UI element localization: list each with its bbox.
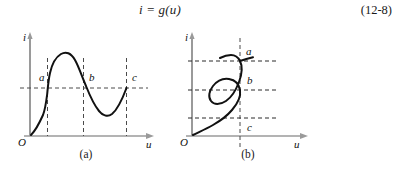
point-label-a-a: a [39,71,45,83]
curve-b-tail [240,57,253,61]
point-label-a-c: c [132,71,137,83]
y-axis-a [27,32,32,136]
y-axis-b [189,32,194,136]
point-label-b-a: a [246,45,252,57]
origin-label-a: O [18,136,26,148]
plot-area-a: a b c i u O [6,28,166,150]
caption-a: (a) [6,148,166,160]
origin-label-b: O [180,136,188,148]
equation-text: i = g(u) [0,2,320,18]
point-label-b-c: c [247,121,252,133]
point-label-a-b: b [89,71,95,83]
curve-a [31,53,127,135]
point-label-b-b: b [247,74,253,86]
y-axis-label-b: i [185,31,188,43]
y-axis-label-a: i [23,31,26,43]
figure-a: a b c i u O (a) [6,28,166,178]
plot-area-b: a b c i u O [168,28,328,150]
caption-b: (b) [168,148,328,160]
figure-page: i = g(u) (12-8) [0,0,400,181]
equation-number: (12-8) [361,3,392,18]
x-axis-b [186,133,308,139]
figure-b: a b c i u O (b) [168,28,328,178]
x-axis-a [24,133,154,139]
curve-b [193,55,242,135]
equation-row: i = g(u) (12-8) [0,2,400,26]
